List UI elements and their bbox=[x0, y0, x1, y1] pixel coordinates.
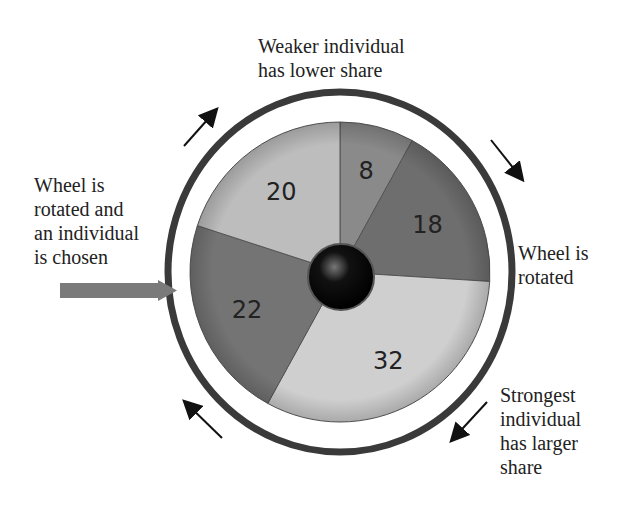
rotation-arrow-top-left-icon bbox=[184, 110, 216, 146]
slice-label: 20 bbox=[266, 178, 297, 206]
slice-label: 8 bbox=[358, 157, 373, 185]
slice-label: 22 bbox=[232, 296, 263, 324]
rotation-arrow-top-right-icon bbox=[491, 140, 522, 179]
slice-label: 18 bbox=[412, 211, 443, 239]
pointer-arrow-icon bbox=[60, 280, 177, 301]
rotation-arrow-bottom-left-icon bbox=[185, 402, 222, 438]
slice-label: 32 bbox=[373, 347, 404, 375]
roulette-wheel-diagram: 818322220 bbox=[0, 0, 627, 508]
hub-icon bbox=[308, 244, 374, 310]
